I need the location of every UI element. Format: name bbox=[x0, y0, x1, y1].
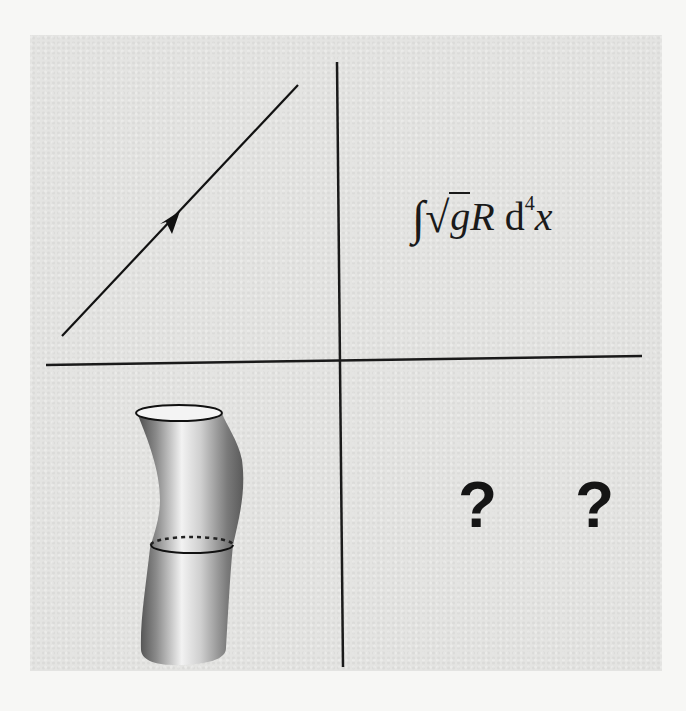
worldline-arrow-icon bbox=[62, 85, 298, 336]
metric-determinant: g bbox=[449, 192, 470, 239]
integral-sign: ∫ bbox=[412, 191, 425, 244]
vertical-divider-line bbox=[337, 62, 343, 667]
einstein-hilbert-action-formula: ∫√gR d4x bbox=[412, 190, 553, 238]
diagram-canvas bbox=[0, 0, 686, 711]
measure-exponent: 4 bbox=[525, 192, 535, 214]
unknown-question-marks: ? ? bbox=[458, 468, 644, 542]
ricci-scalar: R bbox=[470, 194, 494, 239]
measure-variable: x bbox=[535, 194, 553, 239]
string-worldsheet-tube-icon bbox=[136, 405, 243, 665]
horizontal-divider-line bbox=[46, 356, 642, 365]
measure-d: d bbox=[505, 194, 525, 239]
sqrt-sign: √ bbox=[425, 193, 449, 242]
